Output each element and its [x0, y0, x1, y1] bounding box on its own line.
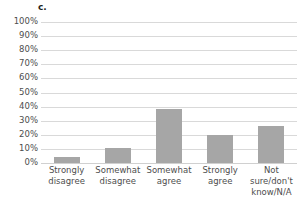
bar-slot: [246, 22, 297, 163]
gridline-0: [41, 163, 297, 164]
y-tick-label-20: 20%: [0, 130, 38, 139]
x-category-label-line: disagree: [41, 176, 92, 187]
bar: [105, 148, 131, 164]
x-category-label: Stronglyagree: [195, 165, 246, 187]
bar: [156, 109, 182, 163]
y-tick-label-60: 60%: [0, 73, 38, 82]
chart-figure: c. 0%10%20%30%40%50%60%70%80%90%100% Str…: [0, 0, 306, 200]
x-category-label-line: know/N/A: [246, 187, 297, 198]
bar-slot: [143, 22, 194, 163]
bar-slot: [92, 22, 143, 163]
y-tick-label-80: 80%: [0, 45, 38, 54]
x-category-label-line: agree: [195, 176, 246, 187]
y-tick-label-30: 30%: [0, 116, 38, 125]
bar-slot: [195, 22, 246, 163]
y-tick-label-50: 50%: [0, 88, 38, 97]
y-tick-label-70: 70%: [0, 59, 38, 68]
x-category-label: Somewhatdisagree: [92, 165, 143, 187]
x-category-label-line: Somewhat: [92, 165, 143, 176]
bar-slot: [41, 22, 92, 163]
x-category-label-line: Strongly: [41, 165, 92, 176]
x-category-label: Not sure/don'tknow/N/A: [246, 165, 297, 198]
x-category-label-line: Somewhat: [143, 165, 194, 176]
bar: [54, 157, 80, 163]
x-category-label-line: agree: [143, 176, 194, 187]
x-category-label: Somewhatagree: [143, 165, 194, 187]
y-tick-label-10: 10%: [0, 144, 38, 153]
bar: [258, 126, 284, 163]
bar: [207, 135, 233, 163]
y-tick-label-0: 0%: [0, 158, 38, 167]
y-tick-label-40: 40%: [0, 102, 38, 111]
bar-series: [41, 22, 297, 163]
y-tick-label-90: 90%: [0, 31, 38, 40]
x-category-label-line: disagree: [92, 176, 143, 187]
x-axis-category-labels: StronglydisagreeSomewhatdisagreeSomewhat…: [41, 165, 297, 199]
x-category-label: Stronglydisagree: [41, 165, 92, 187]
panel-letter: c.: [38, 1, 47, 13]
x-category-label-line: Not sure/don't: [246, 165, 297, 187]
y-axis-tick-labels: 0%10%20%30%40%50%60%70%80%90%100%: [0, 0, 38, 200]
y-tick-label-100: 100%: [0, 17, 38, 26]
x-category-label-line: Strongly: [195, 165, 246, 176]
